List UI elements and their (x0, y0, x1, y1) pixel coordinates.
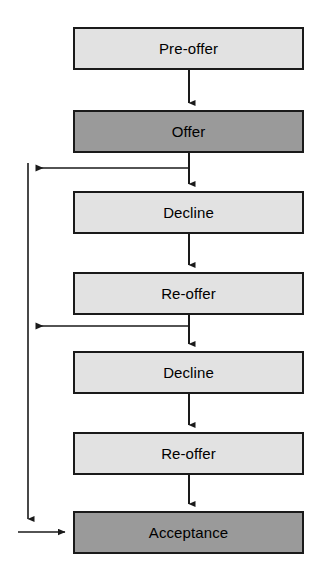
node-re-offer-1-label: Re-offer (161, 286, 216, 301)
node-pre-offer-label: Pre-offer (159, 41, 218, 56)
node-decline-2-label: Decline (163, 365, 214, 380)
node-offer-label: Offer (172, 124, 206, 139)
node-acceptance[interactable]: Acceptance (73, 511, 304, 554)
node-pre-offer[interactable]: Pre-offer (73, 27, 304, 70)
node-offer[interactable]: Offer (73, 110, 304, 153)
node-decline-1-label: Decline (163, 205, 214, 220)
flowchart-diagram: Pre-offer Offer Decline Re-offer Decline… (0, 0, 324, 584)
node-decline-2[interactable]: Decline (73, 351, 304, 394)
node-acceptance-label: Acceptance (149, 525, 228, 540)
node-decline-1[interactable]: Decline (73, 191, 304, 234)
node-re-offer-2-label: Re-offer (161, 446, 216, 461)
node-re-offer-2[interactable]: Re-offer (73, 432, 304, 475)
node-re-offer-1[interactable]: Re-offer (73, 272, 304, 315)
